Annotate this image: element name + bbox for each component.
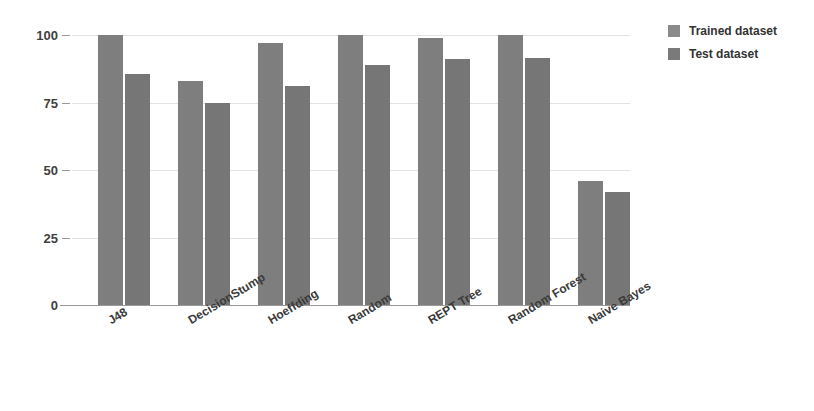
y-tick-mark [62,35,70,36]
bar [125,74,150,305]
bar-group [258,35,310,305]
bar [205,103,230,306]
legend-swatch-icon [668,48,680,60]
legend-item[interactable]: Trained dataset [668,24,777,38]
y-tick-label: 0 [18,299,58,312]
bar [258,43,283,305]
bar [605,192,630,305]
bar [365,65,390,305]
bar-group [578,35,630,305]
legend-swatch-icon [668,25,680,37]
chart-legend: Trained datasetTest dataset [668,24,777,70]
bar [338,35,363,305]
y-tick-mark [62,103,70,104]
bar-group [338,35,390,305]
bar [445,59,470,305]
y-tick-label: 25 [18,232,58,245]
bar [418,38,443,305]
bar-group [418,35,470,305]
bar-group [498,35,550,305]
bar-group [178,35,230,305]
bar [525,58,550,305]
x-axis-tick-label: J48 [106,306,129,327]
plot-area [72,35,630,305]
y-tick-mark [62,238,70,239]
bar-chart: 0255075100 J48DecisionStumpHoeffdingRand… [0,0,814,411]
legend-item[interactable]: Test dataset [668,47,777,61]
y-tick-label: 100 [18,29,58,42]
y-tick-label: 75 [18,97,58,110]
legend-label: Trained dataset [689,25,777,37]
bar [285,86,310,305]
bar [178,81,203,305]
y-tick-label: 50 [18,164,58,177]
bar [578,181,603,305]
y-axis: 0255075100 [0,0,58,411]
y-tick-mark [62,170,70,171]
legend-label: Test dataset [689,48,758,60]
bar-group [98,35,150,305]
bar [498,35,523,305]
bar [98,35,123,305]
